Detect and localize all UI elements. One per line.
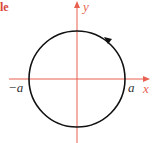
y-axis-label: y [81,0,89,14]
circle-diagram: y x a −a [0,0,156,143]
right-intercept-label: a [128,80,135,95]
left-intercept-label: −a [8,80,24,95]
x-axis-label: x [142,81,149,96]
y-axis-arrow-icon [74,1,80,8]
